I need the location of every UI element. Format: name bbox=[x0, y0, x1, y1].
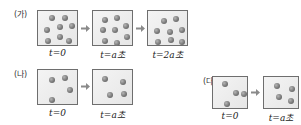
container-na-t0 bbox=[37, 69, 78, 105]
gas-particle bbox=[57, 24, 63, 30]
gas-particle bbox=[123, 23, 129, 29]
caption-da-t0: t=0 bbox=[212, 111, 248, 121]
gas-particle bbox=[120, 79, 126, 85]
container-ga-t2a bbox=[147, 10, 188, 46]
caption-ga-ta: t=a초 bbox=[92, 48, 133, 61]
gas-particle bbox=[289, 86, 295, 92]
gas-particle bbox=[173, 16, 179, 22]
arrow-right-icon bbox=[136, 25, 145, 32]
gas-particle bbox=[167, 29, 173, 35]
arrow-right-icon bbox=[81, 83, 90, 90]
caption-ga-t2a: t=2a초 bbox=[147, 48, 188, 61]
container-da-t0 bbox=[212, 76, 248, 109]
gas-particle bbox=[154, 28, 160, 34]
gas-particle bbox=[222, 81, 228, 87]
caption-na-ta: t=a초 bbox=[92, 108, 133, 121]
gas-particle bbox=[179, 39, 185, 45]
caption-ga-t0: t=0 bbox=[37, 48, 78, 58]
gas-particle bbox=[124, 34, 130, 40]
gas-particle bbox=[62, 15, 68, 21]
gas-particle bbox=[161, 18, 167, 24]
caption-na-t0: t=0 bbox=[37, 108, 78, 118]
gas-particle bbox=[233, 90, 239, 96]
gas-particle bbox=[66, 38, 72, 44]
container-ga-ta bbox=[92, 10, 133, 46]
gas-particle bbox=[44, 27, 50, 33]
gas-particle bbox=[168, 37, 174, 43]
arrow-right-icon bbox=[81, 25, 90, 32]
container-ga-t0 bbox=[37, 10, 78, 46]
container-na-ta bbox=[92, 69, 133, 105]
container-da-ta bbox=[263, 76, 299, 109]
panel-label-ga: (가) bbox=[14, 8, 27, 19]
gas-particle bbox=[179, 27, 185, 33]
gas-particle bbox=[112, 27, 118, 33]
gas-particle bbox=[49, 97, 55, 103]
gas-particle bbox=[49, 77, 55, 83]
arrow-right-icon bbox=[251, 89, 260, 96]
panel-label-na: (나) bbox=[14, 68, 27, 79]
gas-particle bbox=[69, 23, 75, 29]
gas-particle bbox=[276, 94, 282, 100]
gas-particle bbox=[288, 98, 294, 104]
gas-particle bbox=[57, 34, 63, 40]
gas-particle bbox=[45, 38, 51, 44]
gas-particle bbox=[102, 17, 108, 23]
gas-particle bbox=[114, 40, 120, 46]
gas-particle bbox=[62, 75, 68, 81]
gas-particle bbox=[114, 15, 120, 21]
gas-particle bbox=[121, 91, 127, 97]
gas-particle bbox=[155, 39, 161, 45]
gas-particle bbox=[102, 76, 108, 82]
gas-particle bbox=[274, 83, 280, 89]
gas-particle bbox=[100, 27, 106, 33]
gas-particle bbox=[241, 91, 247, 97]
gas-particle bbox=[49, 15, 55, 21]
gas-particle bbox=[102, 38, 108, 44]
caption-da-ta: t=a초 bbox=[263, 111, 299, 124]
gas-particle bbox=[224, 101, 230, 107]
gas-particle bbox=[107, 92, 113, 98]
gas-particle bbox=[67, 87, 73, 93]
